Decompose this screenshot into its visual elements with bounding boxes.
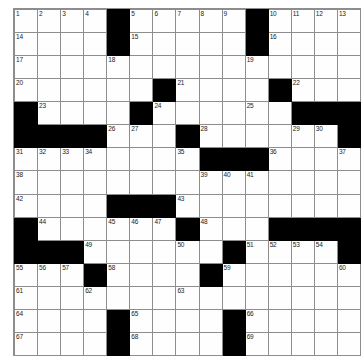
letter-square[interactable]: 3 [61, 10, 84, 33]
letter-square[interactable]: 45 [107, 217, 130, 240]
letter-square[interactable]: 13 [337, 10, 360, 33]
letter-square[interactable]: 37 [337, 148, 360, 171]
letter-square[interactable] [245, 286, 268, 309]
letter-square[interactable]: 56 [38, 263, 61, 286]
letter-square[interactable]: 54 [314, 240, 337, 263]
letter-square[interactable] [61, 286, 84, 309]
letter-square[interactable]: 46 [130, 217, 153, 240]
letter-square[interactable] [84, 217, 107, 240]
letter-square[interactable] [61, 217, 84, 240]
letter-square[interactable]: 31 [15, 148, 38, 171]
letter-square[interactable] [153, 148, 176, 171]
letter-square[interactable]: 51 [245, 240, 268, 263]
letter-square[interactable]: 19 [245, 56, 268, 79]
letter-square[interactable]: 66 [245, 309, 268, 332]
letter-square[interactable] [222, 56, 245, 79]
letter-square[interactable] [314, 309, 337, 332]
letter-square[interactable] [314, 194, 337, 217]
letter-square[interactable] [153, 332, 176, 355]
letter-square[interactable]: 1 [15, 10, 38, 33]
letter-square[interactable]: 34 [84, 148, 107, 171]
letter-square[interactable] [38, 286, 61, 309]
letter-square[interactable]: 36 [268, 148, 291, 171]
letter-square[interactable]: 53 [291, 240, 314, 263]
letter-square[interactable] [38, 79, 61, 102]
letter-square[interactable] [314, 286, 337, 309]
letter-square[interactable] [38, 171, 61, 194]
letter-square[interactable] [61, 102, 84, 125]
letter-square[interactable]: 67 [15, 332, 38, 355]
crossword-grid[interactable]: 1234567891011121314151617181920212223242… [14, 9, 361, 356]
letter-square[interactable] [337, 79, 360, 102]
letter-square[interactable] [245, 217, 268, 240]
letter-square[interactable] [107, 171, 130, 194]
letter-square[interactable] [314, 33, 337, 56]
letter-square[interactable]: 12 [314, 10, 337, 33]
letter-square[interactable] [176, 171, 199, 194]
letter-square[interactable] [222, 79, 245, 102]
letter-square[interactable]: 43 [176, 194, 199, 217]
letter-square[interactable] [268, 125, 291, 148]
letter-square[interactable] [38, 309, 61, 332]
letter-square[interactable]: 25 [245, 102, 268, 125]
letter-square[interactable] [245, 79, 268, 102]
letter-square[interactable] [222, 102, 245, 125]
letter-square[interactable] [199, 194, 222, 217]
letter-square[interactable] [130, 56, 153, 79]
letter-square[interactable] [268, 194, 291, 217]
letter-square[interactable]: 40 [222, 171, 245, 194]
letter-square[interactable]: 9 [222, 10, 245, 33]
letter-square[interactable]: 18 [107, 56, 130, 79]
letter-square[interactable] [107, 79, 130, 102]
letter-square[interactable]: 33 [61, 148, 84, 171]
letter-square[interactable] [268, 56, 291, 79]
letter-square[interactable] [199, 56, 222, 79]
letter-square[interactable]: 61 [15, 286, 38, 309]
letter-square[interactable]: 57 [61, 263, 84, 286]
letter-square[interactable] [107, 286, 130, 309]
letter-square[interactable]: 41 [245, 171, 268, 194]
letter-square[interactable] [314, 332, 337, 355]
letter-square[interactable] [176, 56, 199, 79]
letter-square[interactable] [222, 217, 245, 240]
letter-square[interactable] [268, 309, 291, 332]
letter-square[interactable]: 35 [176, 148, 199, 171]
letter-square[interactable] [199, 240, 222, 263]
letter-square[interactable] [84, 332, 107, 355]
letter-square[interactable] [84, 56, 107, 79]
letter-square[interactable] [38, 56, 61, 79]
letter-square[interactable]: 65 [130, 309, 153, 332]
letter-square[interactable]: 42 [15, 194, 38, 217]
letter-square[interactable] [199, 102, 222, 125]
letter-square[interactable]: 11 [291, 10, 314, 33]
letter-square[interactable] [153, 125, 176, 148]
letter-square[interactable] [245, 263, 268, 286]
letter-square[interactable]: 44 [38, 217, 61, 240]
letter-square[interactable] [291, 309, 314, 332]
letter-square[interactable]: 60 [337, 263, 360, 286]
letter-square[interactable] [222, 286, 245, 309]
letter-square[interactable]: 28 [199, 125, 222, 148]
letter-square[interactable]: 10 [268, 10, 291, 33]
letter-square[interactable] [314, 148, 337, 171]
letter-square[interactable]: 21 [176, 79, 199, 102]
letter-square[interactable]: 58 [107, 263, 130, 286]
letter-square[interactable]: 55 [15, 263, 38, 286]
letter-square[interactable]: 30 [314, 125, 337, 148]
letter-square[interactable]: 32 [38, 148, 61, 171]
letter-square[interactable] [153, 263, 176, 286]
letter-square[interactable]: 49 [84, 240, 107, 263]
letter-square[interactable] [130, 171, 153, 194]
letter-square[interactable] [38, 194, 61, 217]
letter-square[interactable]: 17 [15, 56, 38, 79]
letter-square[interactable] [153, 240, 176, 263]
letter-square[interactable] [199, 332, 222, 355]
letter-square[interactable] [268, 102, 291, 125]
letter-square[interactable]: 69 [245, 332, 268, 355]
letter-square[interactable] [199, 33, 222, 56]
letter-square[interactable]: 23 [38, 102, 61, 125]
letter-square[interactable] [268, 286, 291, 309]
letter-square[interactable] [130, 263, 153, 286]
letter-square[interactable]: 2 [38, 10, 61, 33]
letter-square[interactable] [291, 263, 314, 286]
